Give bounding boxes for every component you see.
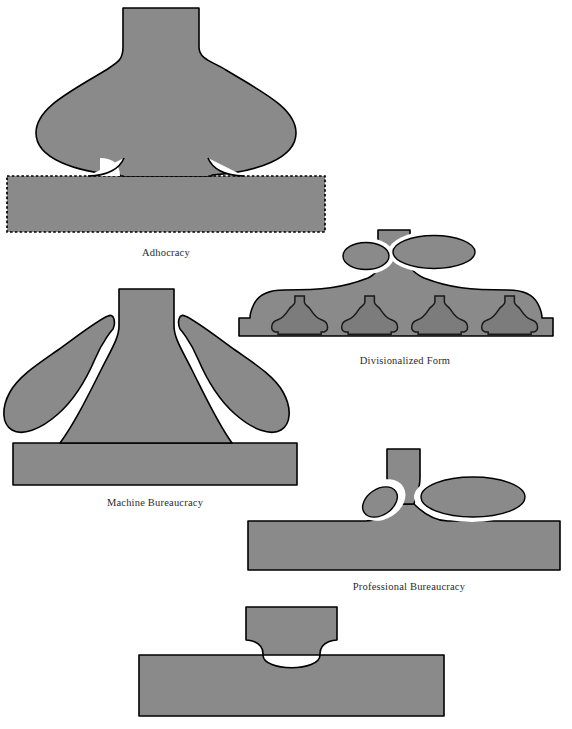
professional-bureaucracy-label: Professional Bureaucracy	[353, 581, 466, 592]
adhocracy-label: Adhocracy	[142, 247, 190, 258]
divisionalized-form-label: Divisionalized Form	[360, 355, 450, 366]
professional-bureaucracy-support-staff-ellipse	[421, 477, 525, 517]
divisionalized-form-support-staff-ellipse	[393, 236, 475, 269]
machine-bureaucracy-operating-core	[13, 443, 297, 485]
divisionalized-form-technostructure-ellipse	[343, 243, 389, 270]
adhocracy-middle-line	[120, 160, 212, 176]
figure-canvas: Adhocracy	[0, 0, 572, 729]
machine-bureaucracy-label: Machine Bureaucracy	[107, 497, 204, 508]
adhocracy-operating-core	[7, 176, 325, 232]
